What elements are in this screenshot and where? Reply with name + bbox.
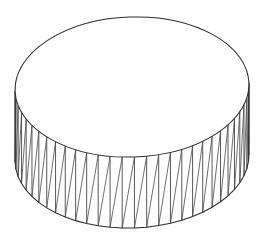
cylinder-diagram: Triangulated cylinder Line drawing of a … bbox=[0, 0, 262, 243]
figure-root: Triangulated cylinder Line drawing of a … bbox=[0, 0, 262, 243]
